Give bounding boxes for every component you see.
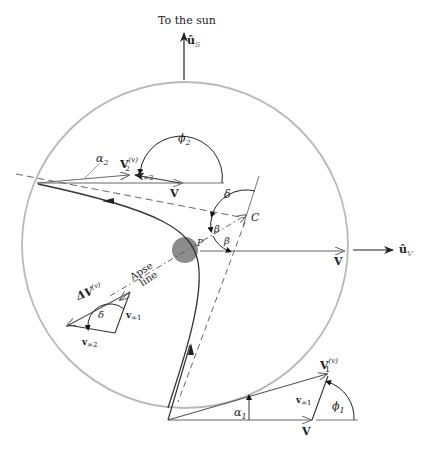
- tri-vinf2-vector: [68, 325, 115, 333]
- delta-triangle-label: δ: [98, 309, 104, 320]
- outgoing-asymptote-dashed: [16, 174, 245, 218]
- apse-line-label: Apse line: [127, 260, 160, 292]
- v-top-label: V: [169, 187, 179, 200]
- tri-vinf2-label: v∞2: [81, 337, 98, 349]
- v-bottom-label: V: [301, 425, 311, 438]
- v1v-label: V(v)1: [319, 357, 338, 374]
- alpha1-label: α1: [234, 406, 247, 421]
- beta-upper-label: β: [213, 223, 220, 234]
- trajectory-arrow-upper: [102, 198, 114, 204]
- vinf2-label: v∞2: [137, 170, 154, 182]
- hyperbolic-trajectory: [38, 184, 199, 408]
- v1-heliocentric-vector: [168, 374, 327, 420]
- v-mid-label: V: [333, 255, 343, 268]
- delta-arc: [212, 190, 255, 215]
- uv-label: ûV: [399, 243, 414, 258]
- delta-v-label: ΔV(v): [73, 281, 104, 304]
- us-label: ûS: [187, 34, 201, 49]
- periapsis-label: P: [196, 238, 204, 248]
- svg-text:ΔV(v): ΔV(v): [73, 281, 104, 304]
- delta-top-label: δ: [224, 188, 231, 201]
- v2-heliocentric-vector: [37, 175, 129, 183]
- phi1-label: ϕ1: [332, 400, 345, 415]
- beta-arc-upper: [211, 216, 212, 230]
- beta-lower-label: β: [223, 235, 230, 246]
- alpha2-pointer: [85, 163, 100, 178]
- vinf1-vector: [312, 376, 328, 420]
- phi2-label: ϕ2: [178, 132, 191, 147]
- flyby-diagram: To the sun ûS ûV ϕ2 α2 V(v)2 v∞2 V δ C β…: [0, 0, 433, 454]
- tri-vinf1-label: v∞1: [125, 310, 142, 322]
- to-the-sun-label: To the sun: [158, 14, 216, 27]
- vinf1-label: v∞1: [295, 395, 312, 407]
- c-point-label: C: [251, 211, 260, 224]
- alpha2-label: α2: [96, 152, 109, 167]
- v2v-label: V(v)2: [119, 156, 138, 173]
